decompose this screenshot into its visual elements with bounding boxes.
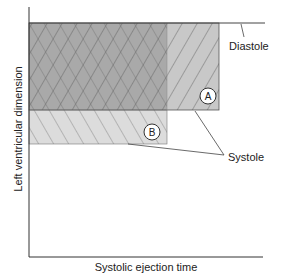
y-axis-label: Left ventricular dimension xyxy=(12,66,24,191)
overlap-region xyxy=(29,23,167,110)
diastole-leader xyxy=(241,24,244,37)
diastole-label: Diastole xyxy=(229,40,269,52)
systole-leader-b xyxy=(128,144,224,155)
ventricular-diagram: A B Diastole Systole Left ventricular di… xyxy=(0,0,281,277)
systole-leader-a xyxy=(195,111,224,155)
x-axis-label: Systolic ejection time xyxy=(95,261,198,273)
region-a-label: A xyxy=(200,88,217,105)
region-b-label: B xyxy=(144,124,161,141)
systole-label: Systole xyxy=(228,151,264,163)
